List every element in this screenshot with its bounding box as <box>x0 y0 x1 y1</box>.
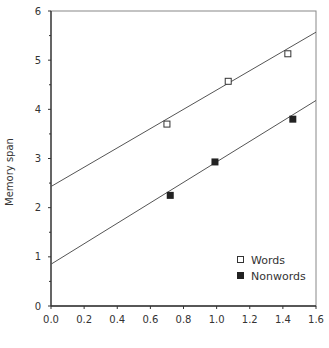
legend-words-label: Words <box>251 254 285 267</box>
nonwords-marker-icon <box>211 158 218 165</box>
words-marker-icon <box>225 78 231 84</box>
x-tick-label: 0.6 <box>142 314 158 325</box>
chart: 0123456 0.00.20.40.60.81.01.21.41.6 Memo… <box>0 0 329 348</box>
x-tick-label: 1.0 <box>209 314 225 325</box>
x-tick-label: 0.2 <box>76 314 92 325</box>
y-tick-label: 5 <box>35 55 41 66</box>
y-tick-label: 4 <box>35 104 41 115</box>
fit-lines <box>51 32 316 264</box>
legend-nonwords-swatch-icon <box>237 272 244 279</box>
y-tick-label: 3 <box>35 153 41 164</box>
words-fit-line <box>51 32 316 186</box>
y-axis: 0123456 <box>35 6 51 312</box>
legend-words-swatch-icon <box>238 257 244 263</box>
y-tick-label: 0 <box>35 301 41 312</box>
nonwords-fit-line <box>51 100 316 264</box>
y-tick-label: 2 <box>35 202 41 213</box>
x-tick-label: 0.0 <box>43 314 59 325</box>
x-tick-label: 1.4 <box>275 314 291 325</box>
nonwords-marker-icon <box>167 192 174 199</box>
legend-nonwords-label: Nonwords <box>251 270 306 283</box>
legend: Words Nonwords <box>237 254 306 283</box>
x-tick-label: 0.8 <box>176 314 192 325</box>
x-axis: 0.00.20.40.60.81.01.21.41.6 <box>43 306 324 325</box>
x-tick-label: 1.6 <box>308 314 324 325</box>
x-tick-label: 1.2 <box>242 314 258 325</box>
y-tick-label: 1 <box>35 251 41 262</box>
x-tick-label: 0.4 <box>109 314 125 325</box>
y-tick-label: 6 <box>35 6 41 17</box>
words-marker-icon <box>164 121 170 127</box>
nonwords-marker-icon <box>289 116 296 123</box>
words-marker-icon <box>285 51 291 57</box>
y-axis-title: Memory span <box>4 138 15 206</box>
